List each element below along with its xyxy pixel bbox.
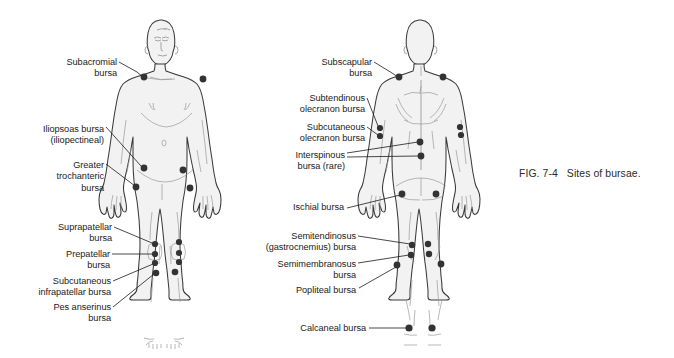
bursa-dot	[409, 242, 415, 248]
bursa-dot	[152, 260, 158, 266]
bursa-dot	[176, 250, 182, 256]
bursa-dot	[417, 139, 424, 146]
anterior-body-figure	[99, 20, 221, 349]
bursa-dot	[396, 74, 403, 81]
bursa-dot	[438, 261, 445, 268]
label-ischial-bursa: Ischial bursa	[250, 202, 344, 213]
bursa-dot	[133, 184, 140, 191]
label-subcutaneous-infrapatellar-bursa: Subcutaneous infrapatellar bursa	[0, 276, 111, 299]
bursa-dot	[433, 191, 440, 198]
label-subtendinous-olecranon-bursa: Subtendinous olecranon bursa	[250, 93, 365, 116]
bursa-dot	[394, 262, 401, 269]
bursa-dot	[399, 191, 406, 198]
bursa-dot	[428, 324, 435, 331]
label-subacromial-bursa: Subacromial bursa	[0, 57, 117, 80]
label-semitendinosus-bursa: Semitendinosus (gastrocnemius) bursa	[240, 231, 356, 254]
label-popliteal-bursa: Popliteal bursa	[240, 285, 356, 296]
bursa-dot	[187, 185, 194, 192]
bursa-dot	[408, 252, 414, 258]
bursa-dot	[405, 324, 412, 331]
bursa-dot	[457, 124, 463, 130]
bursa-dot	[141, 165, 148, 172]
label-prepatellar-bursa: Prepatellar bursa	[0, 249, 110, 272]
bursa-dot	[425, 241, 431, 247]
bursa-dot	[152, 251, 158, 257]
bursa-dot	[377, 133, 383, 139]
bursa-dot	[152, 241, 158, 247]
bursa-dot	[418, 153, 425, 160]
label-subcutaneous-olecranon-bursa: Subcutaneous olecranon bursa	[250, 122, 365, 145]
bursa-dot	[172, 269, 179, 276]
figure-caption: FIG. 7-4 Sites of bursae.	[519, 168, 641, 179]
bursa-dot	[458, 132, 464, 138]
label-semimembranosus-bursa: Semimembranosus bursa	[240, 259, 356, 282]
bursa-dot	[141, 74, 148, 81]
label-interspinous-bursa: Interspinous bursa (rare)	[250, 150, 345, 173]
label-subscapular-bursa: Subscapular bursa	[255, 57, 372, 80]
label-greater-trochanteric-bursa: Greater trochanteric bursa	[0, 160, 104, 194]
bursa-dot	[180, 167, 187, 174]
bursa-dot	[377, 125, 383, 131]
label-iliopsoas-bursa: Iliopsoas bursa (iliopectineal)	[0, 124, 104, 147]
bursa-dot	[176, 239, 182, 245]
bursa-dot	[153, 270, 160, 277]
bursa-dot	[176, 259, 182, 265]
bursa-dot	[200, 76, 207, 83]
posterior-body-figure	[358, 20, 480, 345]
label-suprapatellar-bursa: Suprapatellar bursa	[0, 222, 112, 245]
bursa-dot	[426, 251, 432, 257]
bursa-dot	[440, 74, 447, 81]
label-calcaneal-bursa: Calcaneal bursa	[240, 323, 366, 334]
figure-page: .body-shape { fill:#f2f2f2; stroke:#3a3a…	[0, 0, 674, 358]
label-pes-anserinus-bursa: Pes anserinus bursa	[0, 302, 111, 325]
